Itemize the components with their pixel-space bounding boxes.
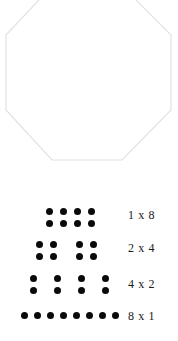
dot — [21, 312, 28, 319]
dot — [102, 287, 109, 294]
factor-row-2x4: 2 x 4 — [0, 233, 178, 267]
dot — [50, 241, 57, 248]
dot — [102, 275, 109, 282]
dot — [78, 275, 85, 282]
dot-array-8x1 — [0, 300, 120, 334]
dot — [36, 241, 43, 248]
dot-array-1x8 — [0, 200, 120, 234]
dot — [30, 275, 37, 282]
dot — [99, 312, 106, 319]
octagon-outline — [6, 0, 171, 160]
dot — [90, 253, 97, 260]
dot — [74, 220, 81, 227]
factor-row-1x8: 1 x 8 — [0, 200, 178, 234]
dot — [73, 312, 80, 319]
dot — [88, 208, 95, 215]
dot — [60, 208, 67, 215]
dot — [86, 312, 93, 319]
dot — [112, 312, 119, 319]
octagon-shape-region — [0, 0, 178, 172]
dot-array-4x2 — [0, 267, 120, 301]
dot — [50, 253, 57, 260]
factor-label-8x1: 8 x 1 — [128, 309, 155, 324]
dot — [60, 220, 67, 227]
octagon-svg — [0, 0, 178, 172]
factor-label-2x4: 2 x 4 — [128, 241, 155, 256]
factor-label-1x8: 1 x 8 — [128, 208, 155, 223]
dot — [78, 287, 85, 294]
dot — [54, 275, 61, 282]
dot — [30, 287, 37, 294]
dot — [76, 253, 83, 260]
dot — [76, 241, 83, 248]
dot — [60, 312, 67, 319]
dot — [34, 312, 41, 319]
dot — [36, 253, 43, 260]
factor-array-list: 1 x 8 2 x 4 4 x 2 — [0, 195, 178, 341]
factor-label-4x2: 4 x 2 — [128, 277, 155, 292]
dot — [88, 220, 95, 227]
factor-row-4x2: 4 x 2 — [0, 267, 178, 301]
dot — [90, 241, 97, 248]
dot-array-2x4 — [0, 233, 120, 267]
dot — [54, 287, 61, 294]
dot — [46, 208, 53, 215]
factor-row-8x1: 8 x 1 — [0, 300, 178, 334]
dot — [74, 208, 81, 215]
dot — [46, 220, 53, 227]
dot — [47, 312, 54, 319]
